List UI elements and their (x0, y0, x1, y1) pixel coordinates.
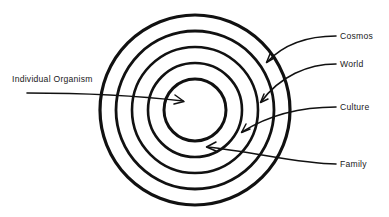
label-world: World (340, 59, 364, 69)
label-individual-organism: Individual Organism (12, 74, 93, 84)
ring-culture (132, 47, 258, 173)
arrowhead-family (207, 142, 217, 151)
diagram-canvas: Individual Organism Cosmos World Culture… (0, 0, 389, 217)
ring-individual-organism (164, 79, 226, 141)
ring-group (100, 15, 290, 205)
leader-line-cosmos (267, 36, 336, 62)
label-culture: Culture (340, 102, 369, 112)
label-family: Family (340, 159, 367, 169)
callout-cosmos (267, 36, 337, 63)
ring-family (148, 63, 242, 157)
callout-individual-organism (27, 93, 184, 104)
leader-line-individual-organism (27, 93, 183, 101)
concentric-rings-diagram: Individual Organism Cosmos World Culture… (0, 0, 389, 217)
ring-cosmos (100, 15, 290, 205)
leader-line-family (207, 147, 336, 164)
ring-world (116, 31, 274, 189)
label-cosmos: Cosmos (340, 31, 373, 41)
